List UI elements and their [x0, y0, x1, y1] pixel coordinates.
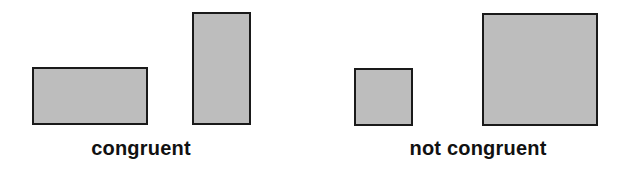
not-congruent-label: not congruent — [409, 137, 546, 160]
congruent-rectangle-vertical — [192, 12, 251, 125]
congruent-rectangle-horizontal — [32, 67, 148, 125]
congruent-label: congruent — [91, 137, 191, 160]
not-congruent-large-square — [482, 13, 598, 126]
not-congruent-small-square — [354, 68, 413, 126]
